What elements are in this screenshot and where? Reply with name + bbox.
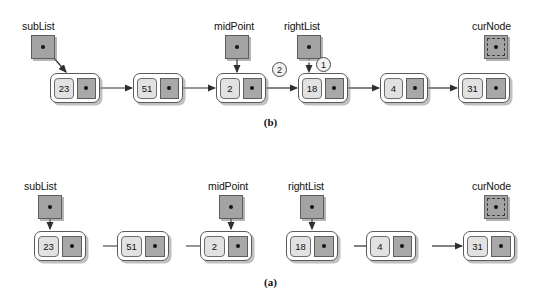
- pointer-label-curnode: curNode: [472, 180, 511, 192]
- list-node-2: 2: [200, 231, 252, 261]
- pointer-label-midpoint: midPoint: [208, 180, 248, 192]
- list-node-51: 51: [133, 73, 183, 103]
- node-link-cell-pointer-dot-icon: [393, 236, 412, 257]
- figure-panel-b: subList midPoint rightList curNode 23 51…: [0, 0, 541, 152]
- node-link-cell-pointer-dot-icon: [325, 78, 344, 99]
- step-marker-2: 2: [272, 62, 287, 77]
- node-link-cell-pointer-dot-icon: [406, 78, 424, 99]
- node-data-cell: 51: [121, 236, 142, 257]
- list-node-4: 4: [366, 231, 416, 261]
- node-data-cell: 4: [370, 236, 390, 257]
- list-node-23: 23: [34, 231, 86, 261]
- pointer-box-midpoint: [225, 35, 249, 59]
- node-link-cell-pointer-dot-icon: [228, 236, 248, 257]
- node-link-cell-pointer-dot-icon: [77, 78, 96, 99]
- pointer-box-rightlist: [297, 35, 321, 59]
- node-link-cell-pointer-dot-icon: [486, 78, 506, 99]
- list-node-18: 18: [286, 231, 338, 261]
- pointer-box-midpoint: [219, 195, 243, 219]
- list-node-2: 2: [216, 73, 266, 103]
- node-link-cell-pointer-dot-icon: [243, 78, 262, 99]
- curnode-dashed-inner-border: [487, 198, 505, 216]
- pointer-box-sublist: [38, 195, 62, 219]
- node-link-cell-pointer-dot-icon: [145, 236, 165, 257]
- node-data-cell: 2: [204, 236, 225, 257]
- node-link-cell-pointer-dot-icon: [314, 236, 334, 257]
- pointer-label-rightlist: rightList: [284, 20, 320, 32]
- node-link-cell-pointer-dot-icon: [62, 236, 82, 257]
- panel-b-caption: (b): [0, 116, 541, 128]
- node-link-cell-pointer-dot-icon: [160, 78, 179, 99]
- node-data-cell: 18: [302, 78, 322, 99]
- list-node-18: 18: [298, 73, 348, 103]
- curnode-dashed-inner-border: [487, 38, 505, 56]
- node-link-cell-pointer-dot-icon: [491, 236, 511, 257]
- pointer-label-curnode: curNode: [472, 20, 511, 32]
- list-node-23: 23: [50, 73, 100, 103]
- node-data-cell: 18: [290, 236, 311, 257]
- node-data-cell: 4: [384, 78, 403, 99]
- pointer-label-sublist: subList: [24, 180, 57, 192]
- list-node-51: 51: [117, 231, 169, 261]
- list-node-31: 31: [463, 231, 515, 261]
- node-data-cell: 23: [38, 236, 59, 257]
- node-data-cell: 31: [462, 78, 483, 99]
- figure-panel-a: subList midPoint rightList curNode 23 51…: [0, 152, 541, 304]
- list-node-31: 31: [458, 73, 510, 103]
- list-node-4: 4: [380, 73, 428, 103]
- pointer-box-curnode: [484, 195, 508, 219]
- node-data-cell: 31: [467, 236, 488, 257]
- node-data-cell: 23: [54, 78, 74, 99]
- pointer-label-midpoint: midPoint: [214, 20, 254, 32]
- pointer-label-rightlist: rightList: [288, 180, 324, 192]
- node-data-cell: 51: [137, 78, 157, 99]
- pointer-box-rightlist: [300, 195, 324, 219]
- pointer-label-sublist: subList: [22, 20, 55, 32]
- step-marker-1: 1: [316, 57, 331, 72]
- panel-a-caption: (a): [0, 276, 541, 288]
- node-data-cell: 2: [220, 78, 240, 99]
- pointer-box-curnode: [484, 35, 508, 59]
- pointer-box-sublist: [31, 35, 55, 59]
